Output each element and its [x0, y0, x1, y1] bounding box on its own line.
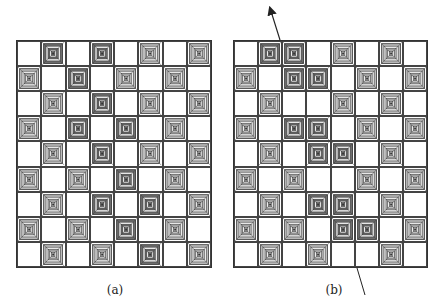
annotation-layer: [0, 0, 443, 308]
arrow-icon: [270, 8, 280, 40]
pointer-line: [357, 268, 365, 295]
